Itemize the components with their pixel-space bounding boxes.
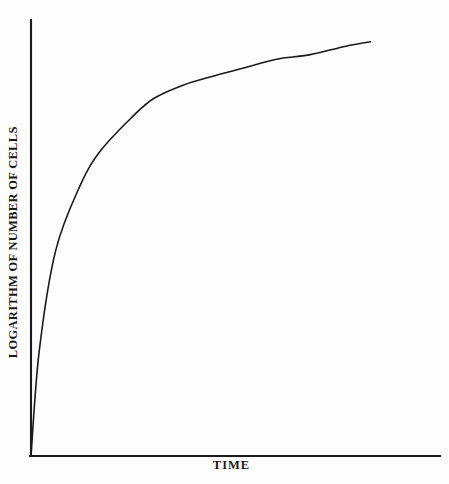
y-axis-label-text: LOGARITHM OF NUMBER OF CELLS [7, 126, 20, 358]
x-axis-label-text: TIME [213, 458, 250, 473]
chart-figure: LOGARITHM OF NUMBER OF CELLS TIME [0, 0, 449, 484]
y-axis-label: LOGARITHM OF NUMBER OF CELLS [0, 0, 26, 484]
chart-plot-area [0, 0, 449, 484]
x-axis-label: TIME [0, 458, 449, 473]
growth-curve-path [31, 42, 370, 456]
